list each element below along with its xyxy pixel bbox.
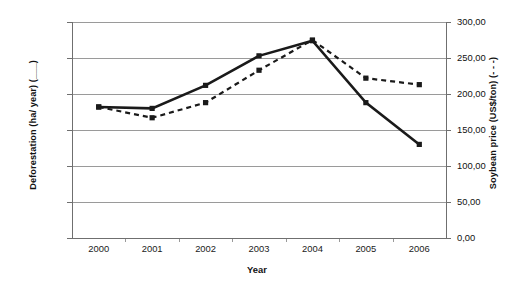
data-point-marker bbox=[203, 100, 208, 105]
data-series-layer bbox=[72, 22, 446, 238]
data-point-marker bbox=[256, 53, 261, 58]
x-axis-tick-label: 2004 bbox=[282, 243, 342, 254]
data-point-marker bbox=[310, 37, 315, 42]
plot-area bbox=[72, 22, 446, 238]
x-axis-tick-label: 2003 bbox=[229, 243, 289, 254]
data-point-marker bbox=[96, 104, 101, 109]
data-point-marker bbox=[256, 68, 261, 73]
chart-figure: Deforestation (ha/ year) (___) Soybean p… bbox=[0, 0, 514, 287]
data-point-marker bbox=[203, 83, 208, 88]
data-point-marker bbox=[150, 115, 155, 120]
data-point-marker bbox=[417, 142, 422, 147]
data-point-marker bbox=[417, 82, 422, 87]
x-axis-tick-label: 2001 bbox=[122, 243, 182, 254]
data-point-marker bbox=[363, 76, 368, 81]
data-point-marker bbox=[150, 106, 155, 111]
x-axis-tick-label: 2000 bbox=[69, 243, 129, 254]
x-axis-tick-label: 2006 bbox=[389, 243, 449, 254]
x-axis-line bbox=[72, 238, 447, 239]
x-axis-tick-label: 2002 bbox=[176, 243, 236, 254]
x-axis-tick-label: 2005 bbox=[336, 243, 396, 254]
y-axis-right-line bbox=[446, 22, 447, 239]
data-point-marker bbox=[363, 100, 368, 105]
